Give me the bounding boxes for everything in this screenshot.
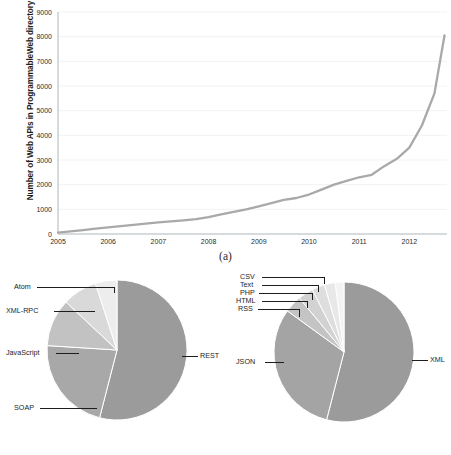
caption-a: (a): [0, 250, 451, 262]
pie-c-label-rss: RSS: [238, 304, 253, 313]
svg-text:9000: 9000: [36, 9, 52, 16]
pie-c-svg: [226, 268, 451, 428]
leader-line-xmlrpc: [54, 311, 95, 312]
svg-text:2008: 2008: [201, 238, 217, 245]
svg-text:0: 0: [48, 231, 52, 238]
pie-c-label-xml: XML: [430, 355, 445, 364]
figure-root: Number of Web APIs in ProgrammableWeb di…: [0, 0, 451, 455]
pie-b-slices: [47, 280, 187, 420]
pie-b-label-xmlrpc: XML-RPC: [6, 306, 38, 315]
pie-b-label-javascript: JavaScript: [6, 348, 40, 357]
svg-text:2007: 2007: [151, 238, 167, 245]
pie-c-label-json: JSON: [236, 357, 255, 366]
pie-b-label-atom: Atom: [14, 282, 31, 291]
leader-line-json: [265, 362, 284, 363]
svg-text:2009: 2009: [251, 238, 267, 245]
leader-tick-csv: [324, 277, 325, 284]
svg-text:1000: 1000: [36, 206, 52, 213]
svg-text:8000: 8000: [36, 33, 52, 40]
pie-b-label-soap: SOAP: [14, 403, 34, 412]
leader-tick-atom: [114, 287, 115, 293]
svg-text:6000: 6000: [36, 83, 52, 90]
y-axis-ticks: 0100020003000400050006000700080009000: [36, 9, 52, 238]
svg-text:2000: 2000: [36, 181, 52, 188]
svg-text:2010: 2010: [301, 238, 317, 245]
svg-text:2011: 2011: [352, 238, 367, 245]
leader-line-csv: [262, 277, 324, 278]
pie-b-label-rest: REST: [200, 351, 219, 360]
leader-line-atom: [37, 287, 115, 288]
leader-line-soap: [40, 408, 97, 409]
leader-line-text: [262, 285, 318, 286]
gridlines: [58, 12, 447, 209]
leader-tick-rss: [299, 309, 300, 317]
leader-line-html: [262, 301, 307, 302]
svg-text:5000: 5000: [36, 107, 52, 114]
leader-line-javascript: [56, 353, 79, 354]
leader-tick-php: [312, 293, 313, 300]
leader-line-php: [259, 293, 312, 294]
data-series-line: [58, 35, 444, 232]
svg-text:2005: 2005: [50, 238, 66, 245]
pie-chart-panel-b: Atom XML-RPC JavaScript SOAP REST (b): [0, 268, 225, 428]
leader-line-xml: [412, 360, 428, 361]
leader-tick-text: [318, 285, 319, 292]
svg-text:2012: 2012: [402, 238, 418, 245]
leader-line-rest: [182, 356, 198, 357]
line-chart-panel-a: Number of Web APIs in ProgrammableWeb di…: [0, 0, 451, 272]
svg-text:3000: 3000: [36, 157, 52, 164]
line-chart-svg: 0100020003000400050006000700080009000 20…: [0, 0, 451, 250]
pie-chart-panel-c: CSV Text PHP HTML RSS JSON XML (c): [226, 268, 451, 428]
x-axis-ticks: 20052006200720082009201020112012: [50, 238, 417, 245]
leader-tick-html: [307, 301, 308, 308]
svg-text:4000: 4000: [36, 132, 52, 139]
svg-text:7000: 7000: [36, 58, 52, 65]
svg-text:2006: 2006: [100, 238, 116, 245]
pie-c-slices: [274, 282, 414, 422]
leader-line-rss: [258, 309, 299, 310]
